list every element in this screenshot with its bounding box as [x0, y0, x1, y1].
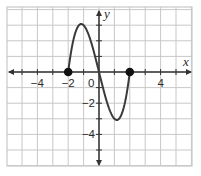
- y-axis-label: y: [102, 6, 110, 21]
- x-tick-label: −4: [31, 77, 45, 89]
- y-tick-label: −4: [82, 128, 96, 140]
- x-tick-label: −2: [62, 77, 75, 89]
- origin-label: 0: [88, 77, 94, 89]
- y-tick-label: −2: [82, 97, 95, 109]
- x-tick-label: 4: [157, 77, 164, 89]
- x-axis-label: x: [182, 54, 189, 69]
- function-graph: −4−24−2−4 x y 0: [0, 0, 201, 176]
- endpoint-dot: [64, 68, 73, 77]
- endpoint-dot: [126, 68, 135, 77]
